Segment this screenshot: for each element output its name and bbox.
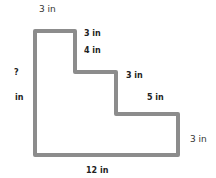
label-right-height: 3 in bbox=[190, 134, 207, 144]
label-step2-drop: 5 in bbox=[147, 93, 164, 102]
label-step2-width: 3 in bbox=[126, 71, 143, 80]
label-step1-drop-b: 4 in bbox=[84, 46, 101, 55]
label-left-height-question: ? bbox=[14, 68, 19, 77]
staircase-shape bbox=[0, 0, 216, 178]
label-bottom-width: 12 in bbox=[86, 166, 108, 175]
label-step1-drop: 3 in bbox=[84, 29, 101, 38]
label-top-width: 3 in bbox=[39, 4, 56, 14]
label-left-height-unit: in bbox=[15, 93, 23, 102]
